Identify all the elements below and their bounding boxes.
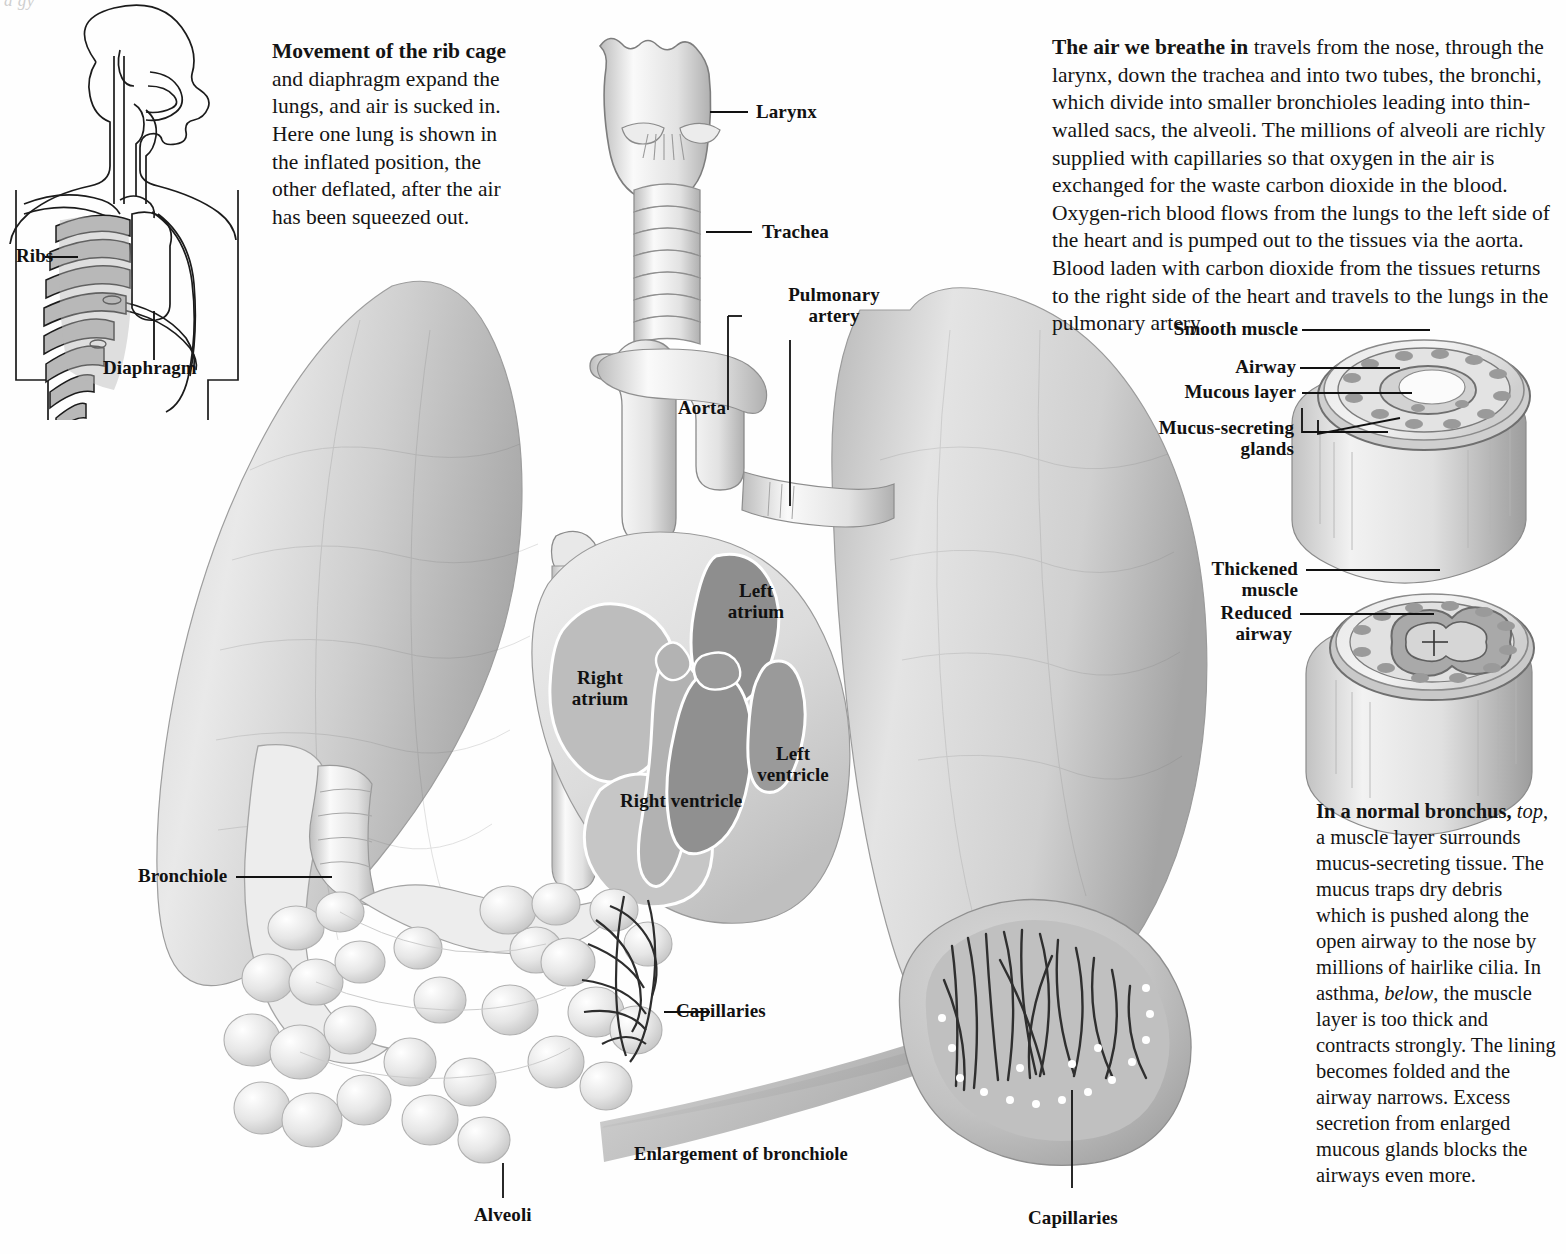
larynx-trachea-group [600,38,720,344]
trachea-rings [634,184,700,344]
label-alveoli: Alveoli [474,1205,532,1225]
breathe-caption-body: travels from the nose, through the laryn… [1052,35,1550,335]
label-mucous-layer: Mucous layer [1092,382,1296,402]
bronchus-caption-part2: , a muscle layer surrounds mucus-secreti… [1316,800,1548,1004]
label-airway: Airway [1092,357,1296,377]
label-thickened-muscle-line1: Thickened [1100,559,1298,579]
label-aorta: Aorta [678,398,726,418]
normal-bronchus-cylinder [1292,340,1530,583]
breathe-caption-lead: The air we breathe in [1052,35,1248,59]
label-left-ventricle-line2: ventricle [738,765,848,785]
label-pulmonary-artery-line2: artery [742,306,926,326]
label-right-atrium-line1: Right [548,668,652,688]
label-enlargement-of-bronchiole: Enlargement of bronchiole [634,1145,848,1164]
label-left-ventricle-line1: Left [738,744,848,764]
label-smooth-muscle: Smooth muscle [1092,319,1298,339]
breathe-caption: The air we breathe in travels from the n… [1052,34,1552,338]
bronchus-caption-lead: In a normal bronchus, [1316,800,1512,822]
label-ribs: Ribs [16,246,53,266]
label-left-atrium-line1: Left [700,581,812,601]
label-left-atrium-line2: atrium [700,602,812,622]
figure-page: a gy [0,0,1566,1254]
rib-cage-caption: Movement of the rib cage and diaphragm e… [272,38,517,231]
rib-cage-caption-lead: Movement of the rib cage [272,39,506,63]
bronchus-caption: In a normal bronchus, top, a muscle laye… [1316,798,1556,1188]
label-reduced-airway-line2: airway [1100,624,1292,644]
label-thickened-muscle-line2: muscle [1100,580,1298,600]
bronchus-caption-part4: , the muscle layer is too thick and cont… [1316,982,1556,1186]
label-capillaries-left: Capillaries [676,1001,766,1021]
label-pulmonary-artery-line1: Pulmonary [742,285,926,305]
label-bronchiole: Bronchiole [138,866,227,886]
label-mucus-secreting-glands-line2: glands [1092,439,1294,459]
enlarged-bronchiole [899,900,1191,1166]
label-right-ventricle: Right ventricle [620,791,742,811]
label-diaphragm: Diaphragm [103,358,197,378]
label-reduced-airway-line1: Reduced [1100,603,1292,623]
label-mucus-secreting-glands-line1: Mucus-secreting [1092,418,1294,438]
label-capillaries-right: Capillaries [1028,1208,1118,1228]
bronchus-caption-top: top [1517,800,1543,822]
bronchus-caption-below: below [1384,982,1433,1004]
rib-cage-caption-body: and diaphragm expand the lungs, and air … [272,67,501,229]
label-trachea: Trachea [762,222,829,242]
label-larynx: Larynx [756,102,817,122]
label-right-atrium-line2: atrium [548,689,652,709]
